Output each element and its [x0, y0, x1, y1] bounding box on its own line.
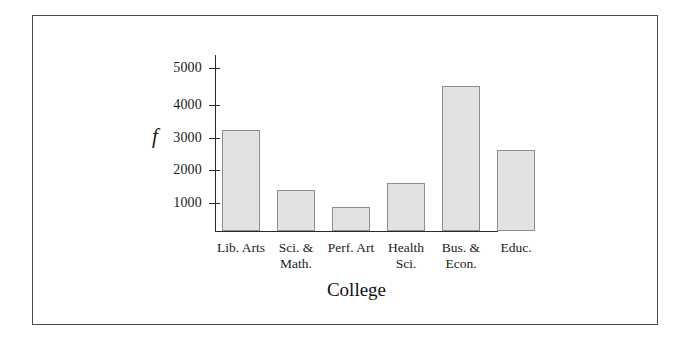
bar-chart-plot-area: 1000 2000 3000 4000 5000 f Lib. Arts Sci…: [0, 0, 681, 344]
x-tick-label-lib-arts-line1: Lib. Arts: [217, 240, 265, 255]
y-axis-title: f: [143, 126, 167, 147]
x-tick-label-perf-art: Perf. Art: [321, 240, 381, 256]
y-tick-label-1000: 1000: [150, 196, 202, 210]
y-tick-mark-4000: [209, 105, 220, 106]
y-tick-mark-3000: [209, 138, 220, 139]
y-tick-mark-5000: [209, 68, 220, 69]
x-tick-label-sci-math-line2: Math.: [266, 256, 326, 272]
x-tick-label-sci-math-line1: Sci. &: [279, 240, 314, 255]
x-tick-label-perf-art-line1: Perf. Art: [328, 240, 375, 255]
x-tick-label-educ-line1: Educ.: [500, 240, 531, 255]
x-axis-line: [215, 231, 498, 232]
y-tick-label-2000: 2000: [150, 163, 202, 177]
x-tick-label-lib-arts: Lib. Arts: [211, 240, 271, 256]
x-tick-label-sci-math: Sci. & Math.: [266, 240, 326, 271]
bar-bus-econ: [442, 86, 480, 231]
y-tick-mark-2000: [209, 170, 220, 171]
x-tick-label-bus-econ: Bus. & Econ.: [431, 240, 491, 271]
bar-sci-math: [277, 190, 315, 231]
bar-health-sci: [387, 183, 425, 231]
y-tick-label-4000: 4000: [150, 98, 202, 112]
bar-perf-art: [332, 207, 370, 231]
x-tick-label-health-sci: Health Sci.: [376, 240, 436, 271]
x-axis-title: College: [215, 279, 498, 301]
y-tick-label-5000: 5000: [150, 61, 202, 75]
bar-educ: [497, 150, 535, 231]
x-tick-label-educ: Educ.: [486, 240, 546, 256]
x-tick-label-health-sci-line2: Sci.: [376, 256, 436, 272]
figure: 1000 2000 3000 4000 5000 f Lib. Arts Sci…: [0, 0, 681, 344]
x-tick-label-bus-econ-line2: Econ.: [431, 256, 491, 272]
y-tick-mark-1000: [209, 203, 220, 204]
x-tick-label-health-sci-line1: Health: [388, 240, 424, 255]
bar-lib-arts: [222, 130, 260, 231]
y-axis-line: [215, 55, 216, 232]
x-tick-label-bus-econ-line1: Bus. &: [442, 240, 480, 255]
